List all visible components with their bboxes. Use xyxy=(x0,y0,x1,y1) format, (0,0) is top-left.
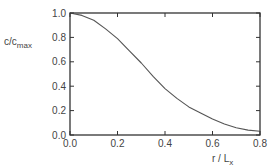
y-tick-label: 0.4 xyxy=(52,81,66,92)
y-tick-label: 1.0 xyxy=(52,8,66,19)
x-axis-label: r / Lx xyxy=(212,153,233,166)
x-tick-label: 0.8 xyxy=(253,138,267,149)
y-tick-label: 0.0 xyxy=(52,130,66,141)
y-tick-label: 0.8 xyxy=(52,32,66,43)
x-tick-label: 0.6 xyxy=(206,138,220,149)
y-axis-label: c/cmax xyxy=(4,36,32,50)
data-curve xyxy=(70,13,260,131)
x-tick-label: 0.2 xyxy=(111,138,125,149)
plot-frame xyxy=(70,13,260,135)
y-tick-label: 0.6 xyxy=(52,56,66,67)
y-tick-label: 0.2 xyxy=(52,105,66,116)
chart: 0.00.20.40.60.80.00.20.40.60.81.0 c/cmax… xyxy=(0,0,278,166)
x-tick-label: 0.4 xyxy=(158,138,172,149)
